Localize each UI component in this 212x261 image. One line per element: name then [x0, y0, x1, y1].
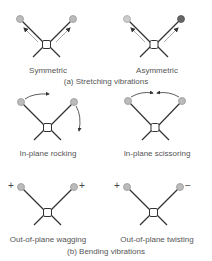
twisting-label: Out-of-plane twisting — [106, 235, 208, 244]
stretching-caption: (a) Stretching vibrations — [0, 77, 212, 86]
scissoring-label: In-plane scissoring — [106, 149, 208, 158]
wagging-label: Out-of-plane wagging — [0, 235, 96, 244]
asymmetric-stretch-molecule — [124, 16, 185, 58]
rocking-label: In-plane rocking — [0, 149, 96, 158]
wagging-molecule — [18, 184, 78, 226]
twisting-molecule — [124, 184, 184, 226]
wagging-sign-left: + — [8, 180, 14, 191]
twisting-sign-left: + — [114, 180, 120, 191]
bending-caption: (b) Bending vibrations — [0, 247, 212, 256]
scissoring-molecule — [125, 93, 186, 141]
vibration-diagram — [0, 0, 212, 261]
symmetric-label: Symmetric — [0, 66, 96, 75]
asymmetric-label: Asymmetric — [106, 66, 208, 75]
twisting-sign-right: − — [185, 180, 191, 191]
symmetric-stretch-molecule — [17, 16, 77, 58]
rocking-molecule — [18, 94, 81, 140]
wagging-sign-right: + — [79, 180, 85, 191]
